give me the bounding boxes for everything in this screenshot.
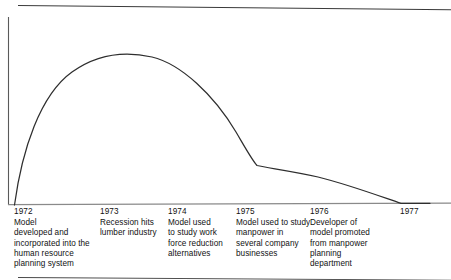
desc-line: department — [310, 259, 394, 269]
year-label-1972: 1972 — [14, 207, 98, 217]
year-desc-1976: Developer of model promoted from manpowe… — [310, 218, 394, 270]
year-desc-1974: Model used to study work force reduction… — [168, 218, 236, 260]
desc-line: planning — [310, 249, 394, 259]
desc-line: Model used — [168, 218, 236, 228]
desc-line: alternatives — [168, 249, 236, 259]
desc-line: lumber industry — [100, 228, 168, 238]
year-label-1975: 1975 — [236, 207, 314, 217]
desc-line: Recession hits — [100, 218, 168, 228]
year-block-1974: 1974 Model used to study work force redu… — [168, 207, 236, 259]
desc-line: Model — [14, 218, 98, 228]
desc-line: developed and — [14, 228, 98, 238]
year-desc-1972: Model developed and incorporated into th… — [14, 218, 98, 270]
desc-line: Developer of — [310, 218, 394, 228]
year-label-1973: 1973 — [100, 207, 168, 217]
desc-line: manpower in — [236, 228, 314, 238]
desc-line: to study work — [168, 228, 236, 238]
year-block-1972: 1972 Model developed and incorporated in… — [14, 207, 98, 270]
desc-line: businesses — [236, 249, 314, 259]
desc-line: Model used to study — [236, 218, 314, 228]
year-label-1976: 1976 — [310, 207, 394, 217]
year-block-1973: 1973 Recession hits lumber industry — [100, 207, 168, 239]
year-label-1974: 1974 — [168, 207, 236, 217]
desc-line: several company — [236, 239, 314, 249]
desc-line: force reduction — [168, 239, 236, 249]
year-label-1977: 1977 — [400, 207, 444, 217]
year-block-1976: 1976 Developer of model promoted from ma… — [310, 207, 394, 270]
year-desc-1975: Model used to study manpower in several … — [236, 218, 314, 260]
desc-line: planning system — [14, 259, 98, 269]
desc-line: from manpower — [310, 239, 394, 249]
year-annotation-row: 1972 Model developed and incorporated in… — [0, 0, 451, 280]
desc-line: human resource — [14, 249, 98, 259]
timeline-lifecycle-chart: 1972 Model developed and incorporated in… — [0, 0, 451, 280]
year-block-1977: 1977 — [400, 207, 444, 217]
desc-line: incorporated into the — [14, 239, 98, 249]
year-desc-1973: Recession hits lumber industry — [100, 218, 168, 239]
year-block-1975: 1975 Model used to study manpower in sev… — [236, 207, 314, 259]
desc-line: model promoted — [310, 228, 394, 238]
